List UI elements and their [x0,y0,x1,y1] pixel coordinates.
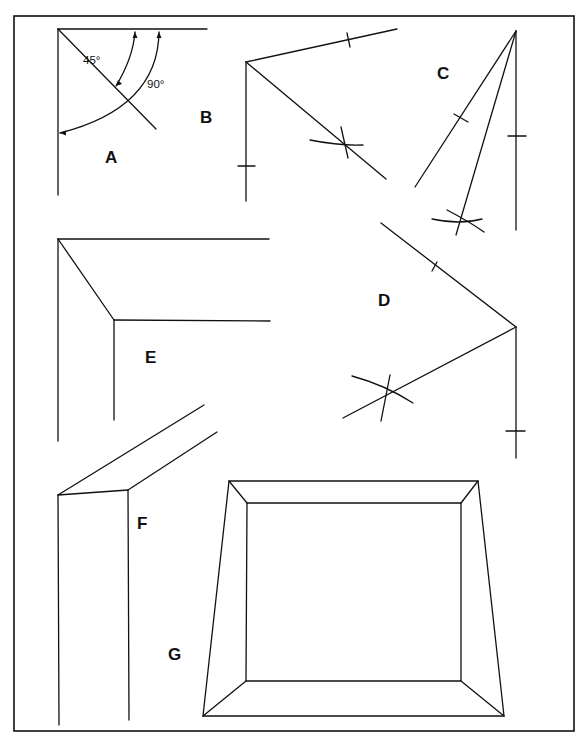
drawing-line [415,31,516,187]
panel-label-g: G [168,645,181,664]
panel-label-e: E [145,348,156,367]
compass-arc [432,219,482,222]
mitre-joint-line [461,481,478,503]
drawing-line [58,495,59,725]
compass-arc [352,376,413,403]
drawing-line [381,223,516,327]
angle-arc [116,32,135,86]
panel-label-c: C [437,64,449,83]
compass-arc [310,140,363,145]
arrowhead-icon [133,32,138,38]
drawing-line [128,490,129,720]
drawing-line [246,29,397,62]
arrowhead-icon [157,32,162,38]
drawing-line [58,239,114,320]
panel-b-angle-bisector-construction [238,29,397,201]
angle-label-45: 45° [83,54,100,66]
drawing-line [58,405,204,495]
mitre-joint-line [203,681,246,716]
drawing-line [58,29,156,129]
panel-label-d: D [378,291,390,310]
panel-d-obtuse-angle-bisector [343,223,525,458]
frame-inner-edge [246,503,461,681]
panel-label-a: A [105,148,117,167]
mitre-joint-line [229,481,247,503]
technical-drawing-figure: 45° 90° A B C D E F G [0,0,586,741]
angle-arc [60,32,159,133]
panel-g-picture-frame-mitres [203,481,504,716]
drawing-line [456,31,516,235]
figure-border [14,16,574,731]
drawing-line [114,320,270,321]
panel-c-acute-angle-bisector [415,31,526,235]
panel-a-bisecting-angle [58,29,207,195]
figure-canvas: 45° 90° A B C D E F G [0,0,586,741]
mitre-joint-line [461,681,504,716]
drawing-line [246,62,386,179]
drawing-line [58,490,128,495]
panel-f-mitre-in-perspective [58,405,217,725]
angle-label-90: 90° [147,78,164,90]
compass-arc [447,210,484,232]
drawing-line [128,432,217,490]
arrowhead-icon [60,131,66,136]
panel-e-mitre-corner [58,239,270,441]
drawing-line [343,327,516,418]
panel-label-b: B [200,108,212,127]
panel-label-f: F [137,514,147,533]
